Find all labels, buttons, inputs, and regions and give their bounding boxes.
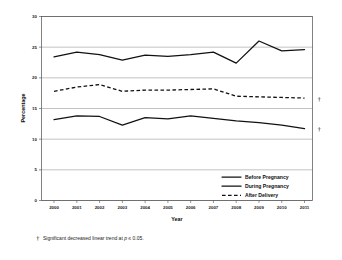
footnote-dagger-icon: † — [36, 234, 40, 242]
y-axis-title: Percentage — [20, 93, 26, 122]
x-tick-label: 2001 — [72, 205, 82, 210]
x-tick-label: 2005 — [163, 205, 173, 210]
y-tick-label: 15 — [32, 106, 37, 111]
x-tick-label: 2003 — [117, 205, 127, 210]
x-tick-label: 2000 — [49, 205, 59, 210]
legend-label[interactable]: After Delivery — [245, 192, 278, 198]
significance-dagger-icon: † — [318, 125, 322, 133]
significance-dagger-icon: † — [318, 95, 322, 103]
y-tick-label: 10 — [32, 137, 37, 142]
x-tick-label: 2002 — [95, 205, 105, 210]
x-tick-label: 2007 — [209, 205, 219, 210]
x-tick-label: 2006 — [186, 205, 196, 210]
chart-figure: 051015202530 200020012002200320042005200… — [0, 0, 342, 260]
y-tick-label: 30 — [32, 14, 37, 19]
x-tick-label: 2011 — [300, 205, 310, 210]
footnote-text-before: Significant decreased linear trend at — [43, 235, 124, 241]
legend-label[interactable]: Before Pregnancy — [245, 174, 289, 180]
footnote-text-after: ≤ 0.05. — [127, 235, 144, 241]
line-chart: 051015202530 200020012002200320042005200… — [0, 0, 342, 260]
svg-text:Significant decreased linear t: Significant decreased linear trend at p … — [43, 235, 144, 241]
y-tick-label: 20 — [32, 75, 37, 80]
x-tick-label: 2004 — [140, 205, 150, 210]
x-tick-label: 2009 — [254, 205, 264, 210]
x-axis-title: Year — [171, 216, 183, 222]
y-tick-label: 25 — [32, 45, 37, 50]
x-tick-label: 2010 — [277, 205, 287, 210]
x-tick-label: 2008 — [231, 205, 241, 210]
legend-label[interactable]: During Pregnancy — [245, 183, 289, 189]
footnote: † Significant decreased linear trend at … — [36, 234, 144, 242]
